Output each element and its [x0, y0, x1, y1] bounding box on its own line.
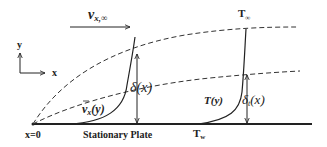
boundary-layer-diagram: y x vx,∞ vx(y) δ(x) T∞ T(y) δt(x) x=0 St… — [0, 0, 327, 147]
free-stream-temperature-label: T∞ — [238, 7, 250, 22]
wall-temperature-label: Tw — [193, 127, 206, 141]
temperature-profile-label: T(y) — [204, 94, 223, 107]
thermal-bl-thickness-label: δt(x) — [242, 92, 265, 108]
velocity-boundary-layer-edge — [33, 27, 297, 124]
velocity-profile-label: vx(y) — [82, 102, 105, 117]
origin-label: x=0 — [25, 129, 41, 140]
x-axis-label: x — [52, 67, 57, 78]
free-stream-velocity-label: vx,∞ — [88, 7, 107, 23]
y-axis-label: y — [17, 39, 22, 50]
velocity-bl-thickness-label: δ(x) — [130, 80, 152, 96]
plate-label: Stationary Plate — [83, 129, 153, 140]
